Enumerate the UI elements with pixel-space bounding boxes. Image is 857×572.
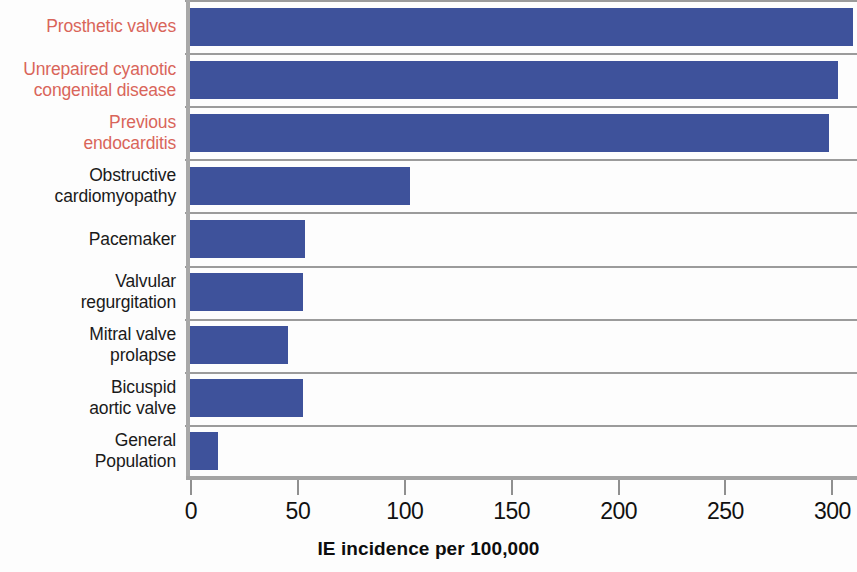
tick-label: 300: [814, 498, 851, 525]
category-label-column: Prosthetic valvesUnrepaired cyanotic con…: [0, 0, 184, 478]
tick-label: 50: [286, 498, 311, 525]
category-label: Bicuspid aortic valve: [89, 377, 176, 419]
category-label: Previous endocarditis: [83, 112, 176, 154]
gridline: [185, 53, 857, 55]
tick-label: 200: [600, 498, 637, 525]
gridline: [185, 266, 857, 268]
tick-mark: [724, 480, 726, 495]
category-label: Prosthetic valves: [46, 16, 176, 37]
y-axis-line: [186, 0, 190, 478]
tick-label: 0: [185, 498, 197, 525]
bar-chart: Prosthetic valvesUnrepaired cyanotic con…: [0, 0, 857, 572]
tick-label: 100: [386, 498, 423, 525]
tick-mark: [404, 480, 406, 495]
bar: [190, 273, 303, 311]
gridline: [185, 0, 857, 2]
category-label: Obstructive cardiomyopathy: [55, 165, 176, 207]
gridline: [185, 372, 857, 374]
tick-label: 150: [493, 498, 530, 525]
category-label: Pacemaker: [89, 229, 176, 250]
category-label: Unrepaired cyanotic congenital disease: [23, 59, 176, 101]
gridline: [185, 212, 857, 214]
gridline: [185, 106, 857, 108]
bar: [190, 8, 853, 46]
bar: [190, 114, 829, 152]
tick-label: 250: [707, 498, 744, 525]
bar: [190, 220, 305, 258]
plot-area: [190, 0, 857, 478]
gridline: [185, 319, 857, 321]
bar: [190, 326, 288, 364]
category-label: General Population: [95, 430, 176, 472]
gridline: [185, 159, 857, 161]
tick-mark: [831, 480, 833, 495]
tick-mark: [511, 480, 513, 495]
bar: [190, 432, 218, 470]
tick-mark: [297, 480, 299, 495]
bar: [190, 61, 838, 99]
tick-mark: [618, 480, 620, 495]
bar: [190, 167, 410, 205]
x-axis-title: IE incidence per 100,000: [0, 538, 857, 560]
gridline: [185, 425, 857, 427]
category-label: Valvular regurgitation: [81, 271, 176, 313]
x-axis-line: [186, 476, 857, 480]
bar: [190, 379, 303, 417]
tick-mark: [190, 480, 192, 495]
category-label: Mitral valve prolapse: [89, 324, 176, 366]
